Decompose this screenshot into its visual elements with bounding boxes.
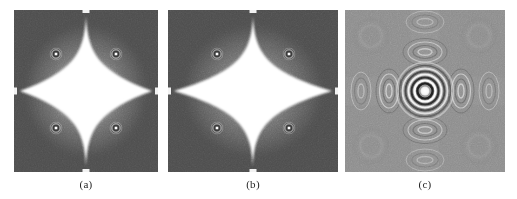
panel-b bbox=[168, 10, 338, 172]
axis-tip-top bbox=[250, 10, 257, 13]
panel-b-spectrum bbox=[168, 10, 338, 172]
satellite-spot-bottom-left bbox=[211, 122, 224, 135]
axis-tip-bottom bbox=[83, 169, 90, 172]
panel-a-spectrum bbox=[14, 10, 158, 172]
satellite-spot-bottom-right bbox=[110, 122, 123, 135]
satellite-spot-top-left bbox=[49, 47, 62, 60]
axis-tip-right bbox=[155, 88, 158, 95]
panel-c-ring-pattern bbox=[345, 10, 505, 172]
panel-b-star-graphic bbox=[168, 10, 338, 172]
panel-c bbox=[345, 10, 505, 172]
panel-a-caption: (a) bbox=[14, 178, 158, 190]
panel-b-caption: (b) bbox=[168, 178, 338, 190]
panel-c-caption: (c) bbox=[345, 178, 505, 190]
panel-a bbox=[14, 10, 158, 172]
satellite-spot-bottom-right bbox=[282, 122, 295, 135]
figure-container: (a) bbox=[0, 0, 517, 199]
axis-tip-left bbox=[168, 88, 171, 95]
panel-a-star-graphic bbox=[14, 10, 158, 172]
axis-tip-right bbox=[335, 88, 338, 95]
axis-tip-bottom bbox=[250, 169, 257, 172]
satellite-spot-bottom-left bbox=[49, 122, 62, 135]
satellite-spot-top-left bbox=[211, 47, 224, 60]
axis-tip-left bbox=[14, 88, 17, 95]
axis-tip-top bbox=[83, 10, 90, 13]
satellite-spot-top-right bbox=[282, 47, 295, 60]
panel-c-rings-graphic bbox=[345, 10, 505, 172]
satellite-spot-top-right bbox=[110, 47, 123, 60]
